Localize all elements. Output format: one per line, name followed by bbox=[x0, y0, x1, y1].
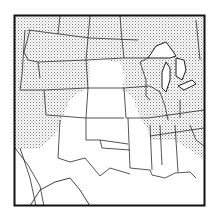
us-map-svg bbox=[0, 0, 218, 221]
map bbox=[0, 0, 218, 221]
